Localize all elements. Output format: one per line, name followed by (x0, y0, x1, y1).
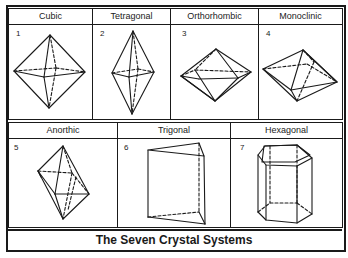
hexagonal-prism-icon (0, 0, 348, 258)
diagram-title: The Seven Crystal Systems (6, 229, 342, 250)
